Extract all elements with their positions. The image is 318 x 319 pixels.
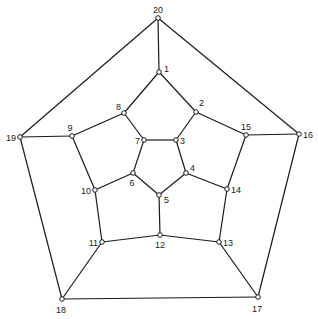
edge-17-18	[62, 297, 258, 299]
edge-15-16	[246, 134, 299, 135]
vertex-label-12: 12	[155, 240, 165, 250]
edge-2-15	[196, 112, 246, 135]
edge-9-19	[20, 136, 72, 137]
vertex-17	[256, 295, 261, 300]
edge-11-12	[102, 235, 160, 242]
edge-5-6	[133, 173, 159, 195]
vertex-label-10: 10	[81, 186, 91, 196]
vertex-8	[122, 111, 127, 116]
edge-10-11	[95, 190, 102, 242]
edge-18-19	[20, 137, 62, 299]
edge-13-14	[219, 189, 227, 242]
edge-5-12	[159, 195, 160, 235]
vertex-9	[70, 134, 75, 139]
vertex-label-19: 19	[6, 133, 16, 143]
vertex-label-9: 9	[67, 123, 72, 133]
vertex-5	[157, 193, 162, 198]
vertex-4	[184, 171, 189, 176]
vertex-7	[142, 138, 147, 143]
vertex-6	[131, 171, 136, 176]
vertex-label-2: 2	[199, 98, 204, 108]
vertex-11	[100, 240, 105, 245]
vertex-16	[297, 132, 302, 137]
graph-node-labels: 1234567891011121314151617181920	[6, 5, 313, 315]
edge-9-10	[72, 136, 95, 190]
vertex-label-16: 16	[303, 130, 313, 140]
graph-nodes	[18, 16, 302, 302]
vertex-label-5: 5	[164, 195, 169, 205]
vertex-label-1: 1	[164, 64, 169, 74]
edge-16-17	[258, 134, 299, 297]
edge-6-10	[95, 173, 133, 190]
edge-2-3	[176, 112, 196, 140]
vertex-label-7: 7	[135, 136, 140, 146]
edge-20-16	[158, 18, 299, 134]
vertex-label-18: 18	[56, 305, 66, 315]
edge-12-13	[160, 235, 219, 242]
vertex-label-3: 3	[180, 136, 185, 146]
vertex-20	[156, 16, 161, 21]
vertex-label-11: 11	[89, 238, 98, 248]
dodecahedron-graph-diagram: 1234567891011121314151617181920	[0, 0, 318, 319]
vertex-label-6: 6	[129, 178, 134, 188]
vertex-12	[158, 233, 163, 238]
vertex-15	[244, 133, 249, 138]
vertex-14	[225, 187, 230, 192]
graph-edges	[20, 18, 299, 299]
edge-4-14	[186, 173, 227, 189]
edge-11-18	[62, 242, 102, 299]
edge-14-15	[227, 135, 246, 189]
vertex-13	[217, 240, 222, 245]
vertex-label-14: 14	[231, 185, 241, 195]
vertex-label-20: 20	[153, 5, 163, 15]
vertex-label-17: 17	[252, 304, 262, 314]
vertex-1	[157, 70, 162, 75]
graph-canvas: 1234567891011121314151617181920	[0, 0, 318, 319]
vertex-2	[194, 110, 199, 115]
edge-20-19	[20, 18, 158, 137]
vertex-10	[93, 188, 98, 193]
edge-13-17	[219, 242, 258, 297]
edge-8-9	[72, 113, 124, 136]
vertex-label-15: 15	[241, 122, 251, 132]
vertex-3	[174, 138, 179, 143]
vertex-label-13: 13	[223, 238, 233, 248]
edge-20-1	[158, 18, 159, 72]
vertex-19	[18, 135, 23, 140]
vertex-label-8: 8	[116, 102, 121, 112]
vertex-18	[60, 297, 65, 302]
edge-1-8	[124, 72, 159, 113]
vertex-label-4: 4	[190, 163, 195, 173]
edge-1-2	[159, 72, 196, 112]
edge-4-5	[159, 173, 186, 195]
